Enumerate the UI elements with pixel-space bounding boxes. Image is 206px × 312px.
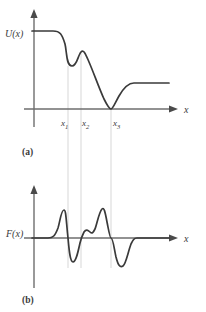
tick-label-x3: x3 — [112, 118, 121, 130]
panel-b-x-axis-arrowhead — [169, 234, 178, 241]
panel-b-force: x F(x) (b) — [5, 185, 189, 306]
panel-a-x-axis-arrowhead — [169, 105, 178, 112]
physics-figure-potential-and-force: x U(x) x1 x2 x3 (a) — [0, 0, 206, 312]
panel-b-x-axis-label: x — [183, 233, 189, 244]
panel-a-y-axis-label: U(x) — [5, 28, 24, 40]
equilibrium-guide-lines — [68, 52, 111, 268]
figure-canvas: x U(x) x1 x2 x3 (a) — [0, 0, 206, 312]
panel-a-potential-energy: x U(x) x1 x2 x3 (a) — [5, 9, 189, 158]
panel-b-y-axis-arrowhead — [30, 185, 37, 194]
panel-a-label: (a) — [22, 147, 33, 158]
panel-a-y-axis-arrowhead — [30, 9, 37, 18]
panel-a-tick-labels: x1 x2 x3 — [60, 118, 121, 130]
potential-energy-curve — [32, 31, 169, 109]
panel-b-y-axis-label: F(x) — [5, 228, 24, 240]
tick-label-x2: x2 — [81, 118, 90, 130]
panel-a-x-axis-label: x — [183, 104, 189, 115]
panel-b-label: (b) — [22, 295, 34, 306]
tick-label-x1: x1 — [60, 118, 68, 130]
